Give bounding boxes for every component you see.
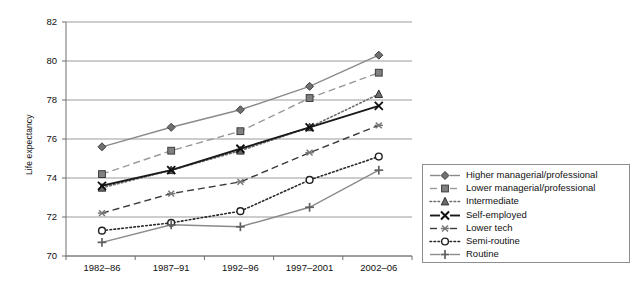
life-expectancy-line-chart: Life expectancy 70727476788082 1982–8619… bbox=[0, 0, 637, 287]
legend-marker bbox=[442, 238, 449, 245]
x-axis-tick-label: 2002–06 bbox=[344, 262, 414, 273]
legend-item-label: Higher managerial/professional bbox=[466, 169, 598, 180]
legend-marker bbox=[441, 172, 449, 180]
series-line bbox=[102, 157, 379, 231]
legend-marker-diamond-icon bbox=[428, 168, 462, 181]
legend-marker-square-icon bbox=[428, 181, 462, 194]
data-point-marker bbox=[167, 191, 175, 197]
legend-item[interactable]: Lower managerial/professional bbox=[423, 181, 629, 194]
legend-marker bbox=[441, 250, 450, 259]
series-5 bbox=[99, 153, 383, 234]
legend-marker bbox=[441, 211, 449, 219]
data-point-marker bbox=[236, 179, 244, 185]
legend-marker-asterisk-icon bbox=[428, 221, 462, 234]
legend-item-label: Self-employed bbox=[466, 209, 527, 220]
legend-item-label: Intermediate bbox=[466, 195, 519, 206]
data-point-marker bbox=[237, 128, 244, 135]
legend-item-label: Routine bbox=[466, 248, 499, 259]
data-point-marker bbox=[98, 143, 106, 151]
data-point-marker bbox=[236, 222, 245, 231]
data-point-marker bbox=[306, 95, 313, 102]
data-point-marker bbox=[375, 153, 382, 160]
legend-item[interactable]: Semi-routine bbox=[423, 234, 629, 247]
data-point-marker bbox=[305, 203, 314, 212]
chart-legend: Higher managerial/professionalLower mana… bbox=[422, 164, 630, 263]
legend-marker-circle-open-icon bbox=[428, 234, 462, 247]
data-point-marker bbox=[237, 208, 244, 215]
legend-marker bbox=[441, 198, 449, 206]
data-point-marker bbox=[98, 210, 106, 216]
legend-item[interactable]: Routine bbox=[423, 247, 629, 260]
data-point-marker bbox=[374, 166, 383, 175]
legend-marker-plus-icon bbox=[428, 247, 462, 260]
legend-marker bbox=[441, 225, 449, 231]
data-point-marker bbox=[375, 51, 383, 59]
data-point-marker bbox=[99, 227, 106, 234]
data-point-marker bbox=[168, 147, 175, 154]
x-axis-tick-label: 1987–91 bbox=[136, 262, 206, 273]
legend-item[interactable]: Self-employed bbox=[423, 208, 629, 221]
legend-item-label: Semi-routine bbox=[466, 235, 520, 246]
x-axis-tick-label: 1992–96 bbox=[205, 262, 275, 273]
legend-item[interactable]: Lower tech bbox=[423, 221, 629, 234]
data-point-marker bbox=[375, 122, 383, 128]
legend-marker bbox=[442, 185, 449, 192]
data-point-marker bbox=[99, 171, 106, 178]
series-line bbox=[102, 73, 379, 174]
legend-marker-x-icon bbox=[428, 208, 462, 221]
legend-item[interactable]: Intermediate bbox=[423, 194, 629, 207]
x-axis-tick-label: 1997–2001 bbox=[275, 262, 345, 273]
data-point-marker bbox=[305, 150, 313, 156]
legend-item[interactable]: Higher managerial/professional bbox=[423, 168, 629, 181]
legend-item-label: Lower managerial/professional bbox=[466, 182, 595, 193]
data-point-marker bbox=[167, 123, 175, 131]
data-point-marker bbox=[375, 69, 382, 76]
data-point-marker bbox=[306, 82, 314, 90]
series-0 bbox=[98, 51, 383, 151]
data-point-marker bbox=[375, 90, 383, 98]
data-point-marker bbox=[236, 106, 244, 114]
x-axis-tick-label: 1982–86 bbox=[67, 262, 137, 273]
data-point-marker bbox=[98, 238, 107, 247]
legend-item-label: Lower tech bbox=[466, 222, 512, 233]
data-point-marker bbox=[306, 177, 313, 184]
series-1 bbox=[99, 69, 383, 177]
legend-marker-triangle-icon bbox=[428, 194, 462, 207]
